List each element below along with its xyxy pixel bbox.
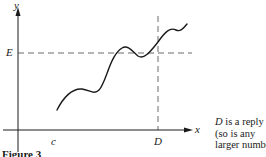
d-reply-note: D is a reply (so is any larger number).	[215, 116, 266, 151]
x-axis-label: x	[195, 124, 200, 135]
figure-caption: Figure 3	[2, 148, 41, 157]
note-line-1: D is a reply	[215, 116, 266, 128]
c-label: c	[51, 136, 56, 147]
e-label: E	[6, 47, 13, 58]
x-axis-arrow-icon	[184, 128, 193, 133]
note-line-3: larger number).	[215, 139, 266, 151]
x-axis	[3, 128, 193, 133]
note-line-2: (so is any	[215, 128, 266, 140]
figure-diagram: y x E c D D is a reply (so is any larger…	[0, 0, 266, 157]
y-axis-label: y	[14, 0, 19, 11]
d-label: D	[154, 136, 162, 147]
function-curve	[57, 24, 187, 110]
